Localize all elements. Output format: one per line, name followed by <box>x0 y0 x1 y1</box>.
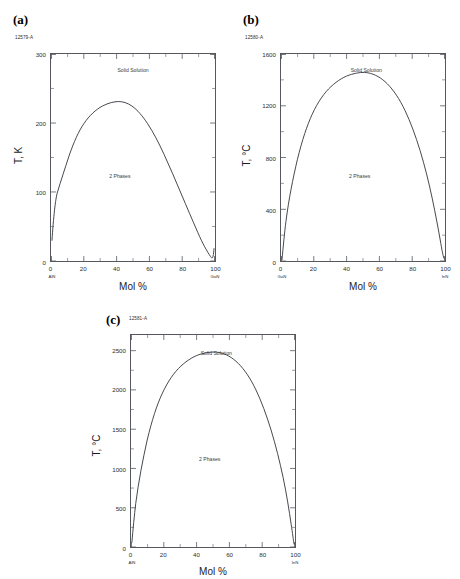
panel-b: (b) 12580-A <box>230 0 460 300</box>
panel-a-svg <box>51 54 215 261</box>
panel-b-ytick-3: 1200 <box>254 102 276 109</box>
panel-b-ytick-1: 400 <box>254 206 276 213</box>
panel-a-xtick-3: 60 <box>146 265 153 272</box>
panel-a-left-endmember-label: AlN <box>49 274 56 279</box>
panel-c-xtick-0: 0 <box>129 551 132 558</box>
panel-b-ytick-0: 0 <box>254 259 276 266</box>
panel-b-solid-solution-label: Solid Solution <box>351 67 382 73</box>
panel-a-x-axis-title: Mol % <box>119 281 147 292</box>
panel-c: (c) 12581-A <box>80 300 380 579</box>
panel-c-y-axis-title-text: T, °C <box>91 435 102 457</box>
panel-a-plot-area: Solid Solution 2 Phases <box>50 53 216 262</box>
panel-a-ytick-1: 100 <box>28 189 46 196</box>
panel-b-x-axis-title: Mol % <box>349 281 377 292</box>
panel-c-x-axis-title: Mol % <box>199 566 227 577</box>
panel-c-tag: (c) <box>106 312 120 328</box>
panel-a-y-axis-title-text: T, K <box>13 147 24 164</box>
panel-c-right-endmember-label: InN <box>292 560 299 565</box>
panel-c-plot-area: Solid Solution 2 Phases <box>130 334 296 548</box>
panel-b-plot-area: Solid Solution 2 Phases <box>280 53 446 262</box>
panel-c-left-endmember-label: AlN <box>129 560 136 565</box>
panel-b-xtick-4: 80 <box>409 265 416 272</box>
panel-c-ytick-4: 2000 <box>104 386 126 393</box>
panel-c-xtick-4: 80 <box>259 551 266 558</box>
panel-c-two-phases-label: 2 Phases <box>199 456 220 462</box>
panel-a-binodal-curve <box>52 102 214 258</box>
panel-c-ytick-3: 1500 <box>104 426 126 433</box>
panel-c-ytick-5: 2500 <box>104 346 126 353</box>
panel-a-ytick-0: 0 <box>28 259 46 266</box>
panel-b-y-axis-title: T, °C <box>236 150 258 161</box>
panel-b-xtick-0: 0 <box>279 265 282 272</box>
panel-a-xtick-2: 40 <box>113 265 120 272</box>
panel-c-y-axis-title: T, °C <box>86 440 108 451</box>
panel-c-xtick-5: 100 <box>290 551 300 558</box>
panel-b-svg <box>281 54 445 261</box>
panel-c-ytick-0: 0 <box>104 545 126 552</box>
panel-a-xtick-1: 20 <box>80 265 87 272</box>
panel-a: (a) 12579-A <box>0 0 230 300</box>
panel-a-two-phases-label: 2 Phases <box>109 173 130 179</box>
panel-b-left-endmember-label: GaN <box>278 274 287 279</box>
panel-a-xtick-0: 0 <box>49 265 52 272</box>
panel-c-ytick-1: 500 <box>104 505 126 512</box>
panel-a-xtick-5: 100 <box>210 265 220 272</box>
panel-b-xtick-2: 40 <box>343 265 350 272</box>
panel-b-xtick-3: 60 <box>376 265 383 272</box>
panel-b-right-endmember-label: InN <box>442 274 449 279</box>
panel-a-solid-solution-label: Solid Solution <box>117 67 148 73</box>
panel-c-xtick-1: 20 <box>160 551 167 558</box>
panel-b-xtick-5: 100 <box>440 265 450 272</box>
figure-container: (a) 12579-A <box>0 0 460 579</box>
panel-c-svg <box>131 335 295 547</box>
panel-c-xtick-3: 60 <box>226 551 233 558</box>
panel-c-code: 12581-A <box>129 316 147 321</box>
panel-b-ytick-4: 1600 <box>254 50 276 57</box>
panel-c-xtick-2: 40 <box>193 551 200 558</box>
panel-a-code: 12579-A <box>15 35 33 40</box>
panel-a-right-endmember-label: GaN <box>211 274 220 279</box>
panel-b-binodal-curve <box>282 72 444 259</box>
panel-a-ytick-2: 200 <box>28 119 46 126</box>
panel-a-xtick-4: 80 <box>179 265 186 272</box>
panel-b-code: 12580-A <box>245 35 263 40</box>
panel-b-two-phases-label: 2 Phases <box>349 173 370 179</box>
panel-b-xtick-1: 20 <box>310 265 317 272</box>
panel-c-ytick-2: 1000 <box>104 465 126 472</box>
panel-a-ytick-3: 300 <box>28 50 46 57</box>
panel-c-binodal-curve <box>132 352 294 544</box>
panel-a-y-axis-title: T, K <box>10 150 27 161</box>
panel-c-solid-solution-label: Solid Solution <box>201 350 232 356</box>
panel-b-y-axis-title-text: T, °C <box>241 145 252 167</box>
panel-a-tag: (a) <box>13 12 28 28</box>
panel-b-tag: (b) <box>243 12 259 28</box>
